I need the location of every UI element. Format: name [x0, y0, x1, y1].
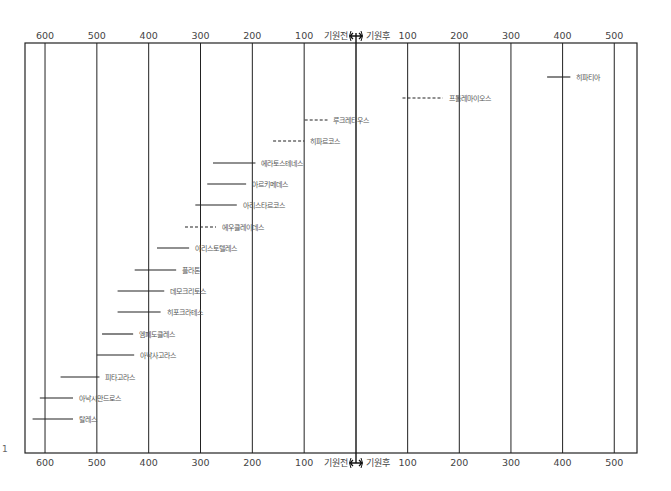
timeline-chart: 600500400300200100100200300400500기원전기원후 …	[0, 0, 671, 491]
bottom-axis: 600500400300200100100200300400500기원전기원후	[36, 457, 623, 468]
lifespan-entry: 에우클레이데스	[185, 223, 265, 232]
lifespan-entry: 피타고라스	[61, 373, 137, 382]
person-label: 탈레스	[79, 415, 98, 424]
tick-label: 200	[450, 30, 468, 41]
ad-label: 기원후	[366, 31, 390, 41]
side-note: 1	[2, 444, 8, 454]
lifespan-entry: 아리스토텔레스	[157, 244, 238, 253]
bc-label: 기원전	[324, 458, 348, 468]
lifespan-bars: 히파티아프톨레마이오스루크레티우스히파르코스에라토스테네스아르키메데스아리스타르…	[33, 73, 602, 424]
ad-label: 기원후	[366, 458, 390, 468]
tick-label: 500	[88, 457, 106, 468]
frame-border	[25, 43, 637, 453]
tick-label: 200	[450, 457, 468, 468]
person-label: 루크레티우스	[333, 116, 370, 125]
lifespan-entry: 히포크라테스	[118, 308, 204, 317]
tick-label: 500	[605, 30, 623, 41]
person-label: 데모크리토스	[170, 287, 207, 296]
tick-label: 100	[399, 457, 417, 468]
tick-label: 600	[36, 457, 54, 468]
tick-label: 400	[554, 457, 572, 468]
tick-label: 100	[295, 457, 313, 468]
tick-label: 300	[191, 30, 209, 41]
tick-label: 300	[502, 30, 520, 41]
person-label: 히파르코스	[310, 137, 341, 146]
top-axis: 600500400300200100100200300400500기원전기원후	[36, 30, 623, 41]
person-label: 프톨레마이오스	[449, 94, 492, 103]
tick-label: 100	[295, 30, 313, 41]
tick-label: 500	[605, 457, 623, 468]
lifespan-entry: 아낙사고라스	[97, 351, 177, 360]
person-label: 아리스토텔레스	[195, 244, 238, 253]
lifespan-entry: 에라토스테네스	[213, 159, 305, 168]
lifespan-entry: 아낙시만드로스	[40, 394, 122, 403]
person-label: 히포크라테스	[167, 308, 204, 317]
tick-label: 300	[502, 457, 520, 468]
lifespan-entry: 프톨레마이오스	[402, 94, 491, 103]
tick-label: 400	[554, 30, 572, 41]
lifespan-entry: 히파티아	[547, 73, 601, 82]
gridlines	[45, 33, 614, 463]
person-label: 엠페도클레스	[139, 330, 176, 339]
tick-label: 400	[140, 457, 158, 468]
lifespan-entry: 데모크리토스	[118, 287, 208, 296]
person-label: 히파티아	[576, 73, 601, 82]
tick-label: 600	[36, 30, 54, 41]
tick-label: 500	[88, 30, 106, 41]
person-label: 아리스타르코스	[243, 201, 286, 210]
person-label: 아르키메데스	[252, 180, 289, 189]
person-label: 피타고라스	[105, 373, 136, 382]
person-label: 에라토스테네스	[261, 159, 304, 168]
person-label: 아낙사고라스	[140, 351, 177, 360]
person-label: 에우클레이데스	[222, 223, 265, 232]
person-label: 아낙시만드로스	[79, 394, 122, 403]
lifespan-entry: 아리스타르코스	[195, 201, 285, 210]
tick-label: 200	[243, 457, 261, 468]
tick-label: 400	[140, 30, 158, 41]
lifespan-entry: 히파르코스	[273, 137, 341, 146]
lifespan-entry: 탈레스	[33, 415, 98, 424]
lifespan-entry: 플라톤	[135, 266, 201, 275]
lifespan-entry: 루크레티우스	[305, 116, 371, 125]
bc-label: 기원전	[324, 31, 348, 41]
lifespan-entry: 엠페도클레스	[102, 330, 176, 339]
tick-label: 200	[243, 30, 261, 41]
tick-label: 100	[399, 30, 417, 41]
tick-label: 300	[191, 457, 209, 468]
lifespan-entry: 아르키메데스	[207, 180, 289, 189]
person-label: 플라톤	[182, 266, 201, 275]
chart-frame	[25, 43, 637, 453]
